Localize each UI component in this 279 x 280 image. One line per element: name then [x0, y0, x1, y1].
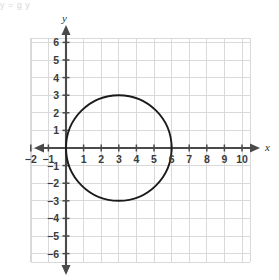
x-tick-label: 6 — [169, 153, 175, 165]
x-tick-label: 7 — [186, 153, 192, 165]
x-axis — [34, 144, 260, 153]
x-axis-arrow-right-icon — [250, 144, 260, 153]
y-axis-arrow-up-icon — [62, 25, 71, 35]
y-tick-label: −4 — [47, 212, 59, 224]
vertical-gridlines — [31, 38, 250, 262]
y-tick-label: 3 — [53, 89, 59, 101]
y-axis-label: y — [61, 12, 67, 24]
horizontal-gridlines — [31, 38, 250, 262]
y-tick-label: 6 — [53, 36, 59, 48]
x-axis-label: x — [264, 141, 270, 153]
x-axis-arrow-left-icon — [34, 144, 44, 153]
x-tick-label: 4 — [133, 153, 139, 165]
x-tick-label: 1 — [81, 153, 87, 165]
y-tick-label: 5 — [53, 54, 59, 66]
coordinate-plane-svg: −2−112345678910654321−1−2−3−4−5−6 x y — [0, 0, 279, 280]
x-tick-label: 8 — [204, 153, 210, 165]
y-tick-label: 4 — [53, 72, 59, 84]
y-tick-label: −5 — [47, 230, 59, 242]
y-tick-label: −3 — [47, 195, 59, 207]
x-tick-label: 9 — [221, 153, 227, 165]
y-tick-label: −6 — [47, 248, 59, 260]
x-tick-label: 2 — [98, 153, 104, 165]
x-tick-label: 5 — [151, 153, 157, 165]
y-axis-arrow-down-icon — [62, 265, 71, 275]
y-tick-label: 1 — [53, 124, 59, 136]
y-tick-label: −2 — [47, 177, 59, 189]
x-tick-label: −2 — [25, 153, 37, 165]
y-tick-label: −1 — [47, 160, 59, 172]
y-tick-label: 2 — [53, 107, 59, 119]
x-tick-label: 3 — [116, 153, 122, 165]
x-tick-label: 10 — [236, 153, 248, 165]
figure-canvas: y = g y −2−112345678910654321−1−2−3−4−5−… — [0, 0, 279, 280]
